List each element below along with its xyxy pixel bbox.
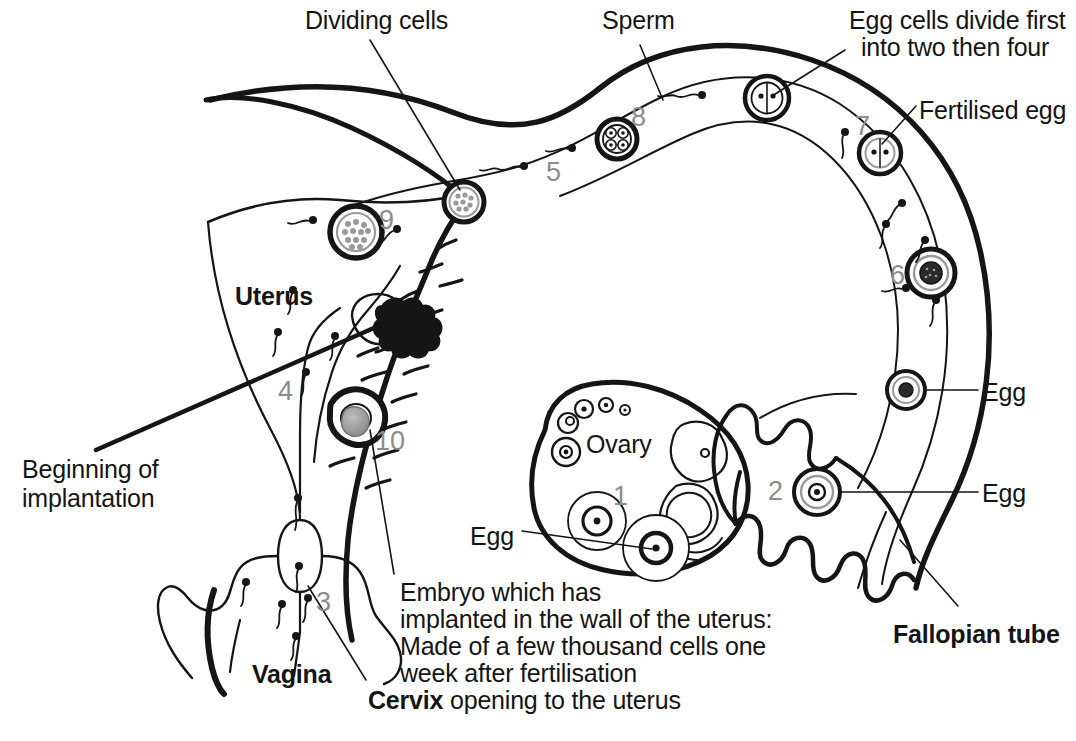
label-fallopian-tube: Fallopian tube: [893, 620, 1060, 649]
label-fertilised-egg: Fertilised egg: [919, 96, 1066, 125]
caption-embryo-line4: week after fertilisation: [400, 659, 637, 688]
ovary-funnel-bridge: [734, 472, 740, 524]
label-egg-funnel: Egg: [982, 479, 1026, 508]
label-vagina: Vagina: [252, 660, 331, 689]
stage-number-8: 8: [631, 104, 646, 131]
leader-dividing-cells: [370, 40, 460, 190]
uterus-left-wall: [208, 222, 300, 520]
stage-number-10: 10: [375, 428, 405, 455]
stage-number-4: 4: [278, 378, 293, 405]
stage-number-2: 2: [768, 478, 783, 505]
diagram-canvas: Dividing cells Sperm Egg cells divide fi…: [0, 0, 1076, 741]
label-sperm: Sperm: [602, 6, 675, 35]
caption-embryo-line3: Made of a few thousand cells one: [400, 632, 766, 661]
label-egg-ovary: Egg: [470, 522, 514, 551]
label-beginning-implantation-line1: Beginning of: [22, 455, 159, 484]
stage-number-5: 5: [546, 159, 561, 186]
cell-morula-dividing: [444, 182, 484, 222]
cervix-canal: [278, 520, 322, 592]
stage-number-7: 7: [855, 113, 870, 140]
cell-egg-funnel: [794, 469, 840, 515]
implanting-embryo-blob: [374, 299, 442, 358]
stage-number-6: 6: [890, 262, 905, 289]
caption-cervix-rest: opening to the uterus: [443, 686, 680, 714]
label-dividing-cells: Dividing cells: [305, 6, 448, 35]
caption-cervix: Cervix opening to the uterus: [368, 686, 681, 715]
cell-morula-uterus: [330, 206, 382, 258]
stage-number-3: 3: [316, 589, 331, 616]
cell-two-cell-top: [745, 76, 789, 120]
stage-number-9: 9: [379, 207, 394, 234]
caption-embryo-line1: Embryo which has: [400, 578, 601, 607]
label-beginning-implantation-line2: implantation: [22, 484, 154, 513]
cell-egg-tube-upper: [887, 371, 925, 409]
label-ovary: Ovary: [586, 430, 652, 459]
label-egg-cells-divide-line2: into two then four: [861, 33, 1049, 62]
caption-cervix-term: Cervix: [368, 686, 443, 714]
cell-fertilised-egg: [907, 249, 955, 297]
cell-ovary-egg-b: [623, 515, 689, 581]
label-uterus: Uterus: [235, 282, 313, 311]
label-egg-cells-divide-line1: Egg cells divide first: [849, 6, 1066, 35]
stage-number-1: 1: [613, 483, 628, 510]
uterus-outer-top: [206, 98, 462, 196]
caption-embryo-line2: implanted in the wall of the uterus:: [400, 605, 772, 634]
label-egg-tube-upper: Egg: [982, 378, 1026, 407]
